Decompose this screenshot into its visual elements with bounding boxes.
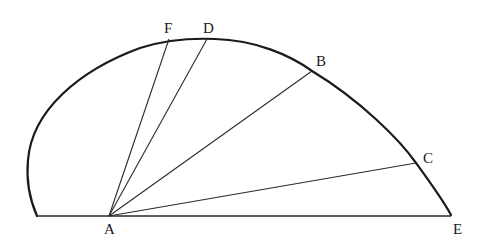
outer-curve	[27, 39, 451, 216]
geometric-diagram: A F D B C E	[0, 0, 489, 250]
label-A: A	[104, 221, 115, 237]
ray-AC	[109, 163, 416, 216]
label-B: B	[316, 53, 326, 69]
label-F: F	[164, 20, 172, 36]
label-E: E	[453, 221, 462, 237]
ray-AD	[109, 39, 207, 216]
label-D: D	[203, 20, 214, 36]
ray-AF	[109, 39, 169, 216]
label-C: C	[423, 150, 433, 166]
ray-AB	[109, 71, 312, 216]
